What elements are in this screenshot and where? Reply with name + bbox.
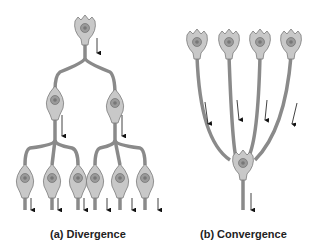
caption-convergence: (b) Convergence [200, 228, 287, 240]
presynaptic-neuron [75, 15, 96, 45]
postsynaptic-neuron [233, 150, 254, 180]
convergence-diagram [197, 56, 291, 210]
neuron [46, 86, 63, 120]
neuron-diagram [0, 0, 327, 246]
neuron [106, 89, 123, 123]
caption-divergence: (a) Divergence [50, 228, 126, 240]
